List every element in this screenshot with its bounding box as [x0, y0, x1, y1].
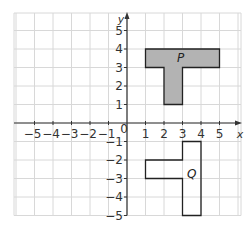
- y-tick-label: −4: [105, 190, 123, 204]
- y-tick-label: −2: [105, 153, 123, 167]
- x-tick-label: 3: [179, 127, 187, 141]
- origin-label: 0: [120, 122, 128, 136]
- x-axis-label: x: [236, 128, 244, 141]
- y-tick-label: 2: [115, 79, 123, 93]
- x-tick-label: −5: [24, 127, 42, 141]
- y-axis-label: y: [117, 13, 125, 26]
- x-tick-label: 1: [142, 127, 150, 141]
- y-tick-label: −3: [105, 172, 123, 186]
- axes: [14, 12, 242, 216]
- coordinate-grid-diagram: PQ −5−4−3−2−11234554321−1−2−3−4−50xy: [0, 0, 247, 232]
- tick-labels: −5−4−3−2−11234554321−1−2−3−4−50xy: [24, 13, 244, 223]
- y-tick-label: 1: [115, 98, 123, 112]
- x-tick-label: −4: [42, 127, 60, 141]
- x-tick-label: 2: [160, 127, 168, 141]
- x-tick-label: 5: [216, 127, 224, 141]
- coordinate-plane: PQ −5−4−3−2−11234554321−1−2−3−4−50xy: [0, 0, 247, 232]
- shape-label-q: Q: [187, 167, 196, 181]
- x-tick-label: 4: [197, 127, 205, 141]
- x-tick-label: −2: [79, 127, 97, 141]
- y-tick-label: 4: [115, 42, 123, 56]
- x-tick-label: −3: [61, 127, 79, 141]
- y-tick-label: −5: [105, 209, 123, 223]
- shape-label-p: P: [177, 51, 185, 65]
- y-tick-label: −1: [105, 135, 123, 149]
- y-tick-label: 3: [115, 61, 123, 75]
